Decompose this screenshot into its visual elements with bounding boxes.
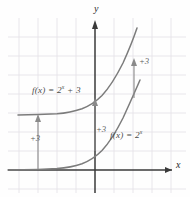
upper-curve-label: f(x) = 2x + 3 — [32, 86, 81, 95]
curve-upper — [18, 28, 137, 115]
shift-label-right: +3 — [139, 57, 149, 66]
y-axis-label: y — [94, 4, 98, 14]
exponential-shift-figure: f(x) = 2x + 3 f(x) = 2x y x +3 +3 +3 — [0, 0, 190, 197]
lower-curve-label: f(x) = 2x — [110, 131, 142, 140]
graph-canvas — [0, 0, 190, 197]
shift-label-left: +3 — [30, 134, 40, 143]
shift-label-middle: +3 — [96, 125, 106, 134]
axis-lines — [8, 24, 172, 193]
shift-arrow-right-head — [131, 58, 137, 66]
x-axis-label: x — [176, 160, 180, 170]
y-axis-arrowhead — [92, 20, 98, 29]
lower-curve-exponent: x — [140, 129, 143, 135]
